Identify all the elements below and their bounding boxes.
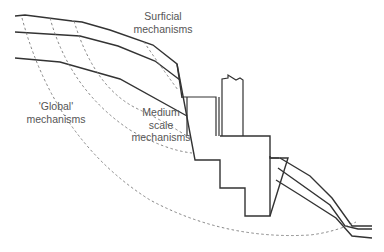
label-medium-line2: scale [126, 119, 196, 132]
toe-layer-middle [278, 168, 372, 229]
label-surficial-line2: mechanisms [128, 23, 198, 36]
label-medium-line1: Medium [126, 106, 196, 119]
label-global-line2: mechanisms [20, 113, 92, 126]
label-medium-line3: mechanisms [126, 131, 196, 144]
toe-surface [280, 158, 372, 226]
label-global-mechanisms: 'Global' mechanisms [20, 100, 92, 125]
label-surficial-line1: Surficial [128, 10, 198, 23]
broken-column [222, 75, 243, 136]
label-medium-mechanisms: Medium scale mechanisms [126, 106, 196, 144]
label-surficial-mechanisms: Surficial mechanisms [128, 10, 198, 35]
label-global-line1: 'Global' [20, 100, 92, 113]
